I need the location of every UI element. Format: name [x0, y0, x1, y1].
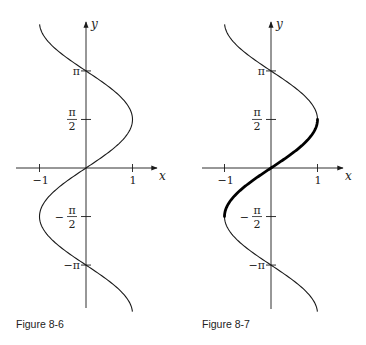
- x-tick-label: 1: [130, 174, 137, 187]
- figure-8-7-caption: Figure 8-7: [202, 318, 250, 330]
- figure-8-7-plot: xy−11ππ2−π2−π: [202, 17, 352, 312]
- y-tick-label: π: [73, 65, 80, 78]
- x-tick-label: −1: [33, 174, 49, 187]
- y-tick-denominator: 2: [254, 218, 261, 231]
- y-tick-numerator: π: [68, 204, 75, 217]
- figure-8-6-plot: xy−11ππ2−π2−π: [16, 17, 166, 312]
- y-tick-label: π: [258, 65, 265, 78]
- y-tick-sign: −: [240, 211, 249, 224]
- y-tick-denominator: 2: [69, 218, 76, 231]
- y-tick-denominator: 2: [69, 120, 76, 133]
- y-tick-sign: −: [55, 211, 64, 224]
- y-tick-numerator: π: [68, 106, 75, 119]
- y-axis-label: y: [90, 17, 98, 31]
- figures-canvas: xy−11ππ2−π2−π xy−11ππ2−π2−π: [0, 0, 366, 345]
- y-tick-label: −π: [249, 259, 265, 272]
- x-tick-label: −1: [218, 174, 234, 187]
- x-axis-label: x: [159, 169, 166, 183]
- figure-8-6-caption: Figure 8-6: [16, 318, 64, 330]
- y-tick-numerator: π: [253, 204, 260, 217]
- x-tick-label: 1: [315, 174, 322, 187]
- y-axis-label: y: [275, 17, 283, 31]
- x-axis-label: x: [345, 169, 352, 183]
- y-tick-denominator: 2: [254, 120, 261, 133]
- y-tick-numerator: π: [253, 106, 260, 119]
- y-tick-label: −π: [64, 259, 80, 272]
